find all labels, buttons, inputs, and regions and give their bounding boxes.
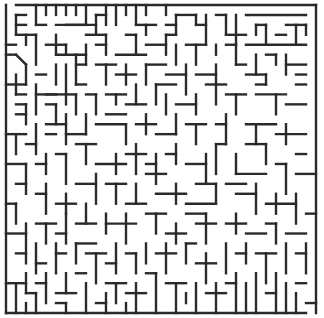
maze-wall (16, 55, 26, 65)
maze-walls (6, 5, 316, 313)
maze-board (0, 0, 324, 318)
